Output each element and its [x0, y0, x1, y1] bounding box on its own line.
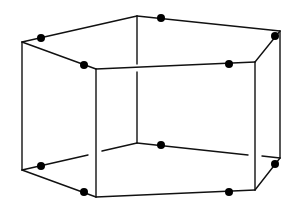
- point-p-bot-2: [157, 141, 165, 149]
- point-p-bot-3: [271, 160, 279, 168]
- point-p-bot-4: [225, 188, 233, 196]
- point-p-top-4: [225, 60, 233, 68]
- prism-points: [37, 14, 279, 196]
- edge-bot-AB-right: [102, 143, 137, 151]
- edge-bot-BC-left: [137, 143, 248, 155]
- point-p-top-1: [37, 34, 45, 42]
- pentagonal-prism-diagram: [0, 0, 298, 214]
- prism-edges: [22, 16, 280, 197]
- point-p-bot-1: [37, 162, 45, 170]
- edge-bot-BC-right: [262, 156, 280, 158]
- point-p-top-2: [157, 14, 165, 22]
- point-p-bot-5: [80, 188, 88, 196]
- point-p-top-3: [271, 32, 279, 40]
- point-p-top-5: [80, 61, 88, 69]
- edge-bot-AB-left: [22, 155, 88, 170]
